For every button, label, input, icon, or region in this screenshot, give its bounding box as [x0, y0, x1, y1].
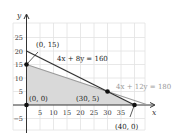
x-tick-15: 15 [63, 109, 71, 117]
x-tick-5: 5 [38, 109, 42, 117]
y-tick-10: 10 [15, 75, 23, 83]
label-vertex-30-5: (30, 5) [76, 95, 100, 103]
x-tick-25: 25 [90, 109, 98, 117]
x-tick-20: 20 [76, 109, 84, 117]
x-tick-30: 30 [103, 109, 111, 117]
y-tick-15: 15 [15, 61, 23, 69]
label-vertex-0-15: (0, 15) [36, 41, 60, 49]
y-axis-label: y [16, 11, 22, 20]
y-tick-20: 20 [15, 48, 23, 56]
label-vertex-0-0: (0, 0) [29, 95, 48, 103]
vertex-0-0 [24, 103, 29, 108]
y-tick-5: 5 [19, 88, 23, 96]
x-tick-10: 10 [49, 109, 57, 117]
vertex-40-0 [132, 103, 137, 108]
y-tick-25: 25 [15, 34, 23, 42]
label-eq-4x-8y-160: 4x + 8y = 160 [57, 55, 108, 63]
x-tick-35: 35 [117, 109, 125, 117]
y-tick-minus-5: −5 [13, 115, 23, 123]
x-axis-label: x [152, 108, 157, 117]
vertex-0-15 [24, 62, 29, 67]
vertex-30-5 [105, 89, 110, 94]
label-vertex-40-0: (40, 0) [115, 123, 139, 131]
feasible-region-chart: y x 25 20 15 10 5 −5 5 10 15 20 25 30 35… [0, 0, 189, 140]
label-eq-4x-12y-180: 4x + 12y = 180 [116, 83, 171, 91]
leader-40-0 [130, 106, 134, 117]
